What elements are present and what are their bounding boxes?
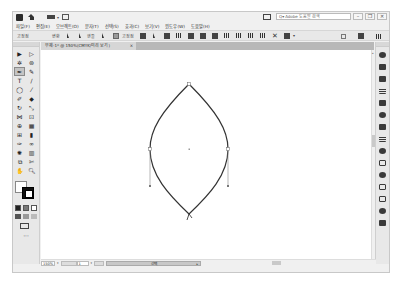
- draw-inside-icon[interactable]: [31, 214, 37, 219]
- cut-path-icon[interactable]: [164, 33, 170, 39]
- align-middle-icon[interactable]: [236, 33, 242, 38]
- isolate-icon[interactable]: [176, 33, 182, 38]
- artboard-canvas[interactable]: [41, 50, 371, 259]
- color-guide-panel-icon[interactable]: [379, 88, 386, 94]
- transform-icon[interactable]: ✕: [272, 33, 278, 39]
- symbol-sprayer-tool[interactable]: ✺: [15, 149, 24, 156]
- stroke-panel-icon[interactable]: [379, 136, 386, 142]
- paintbrush-tool[interactable]: ⁄: [27, 86, 36, 93]
- free-transform-tool[interactable]: ⊡: [27, 113, 36, 120]
- menu-object[interactable]: 오브젝트(O): [56, 23, 79, 29]
- align-bottom-icon[interactable]: [248, 33, 254, 38]
- eyedropper-tool[interactable]: ✑: [15, 140, 24, 147]
- transparency-panel-icon[interactable]: [379, 160, 386, 166]
- menu-help[interactable]: 도움말(H): [191, 23, 210, 29]
- chevron-right-icon[interactable]: ▸: [197, 262, 199, 266]
- zoom-level-field[interactable]: 150%: [41, 261, 55, 266]
- links-panel-icon[interactable]: [379, 220, 386, 226]
- asset-export-panel-icon[interactable]: [379, 208, 386, 214]
- screen-mode-icon[interactable]: [20, 223, 29, 229]
- blend-tool[interactable]: ∞: [27, 140, 36, 147]
- direct-selection-tool[interactable]: ▷: [27, 50, 36, 57]
- artboards-panel-icon[interactable]: [379, 196, 386, 202]
- align-right-icon[interactable]: [212, 33, 218, 39]
- convert-smooth-icon[interactable]: [78, 33, 84, 39]
- perspective-grid-tool[interactable]: ▦: [27, 122, 36, 129]
- close-tab-icon[interactable]: ×: [130, 42, 133, 50]
- close-button[interactable]: ✕: [377, 13, 387, 20]
- draw-behind-icon[interactable]: [23, 214, 29, 219]
- symbols-panel-icon[interactable]: [379, 124, 386, 130]
- menu-edit[interactable]: 편집(E): [36, 23, 50, 29]
- menu-effect[interactable]: 효과(C): [125, 23, 139, 29]
- gradient-panel-icon[interactable]: [379, 148, 386, 154]
- ellipse-tool[interactable]: ◯: [15, 86, 24, 93]
- gradient-tool[interactable]: ▮: [27, 131, 36, 138]
- home-icon[interactable]: [28, 14, 35, 20]
- workspace-switcher-icon[interactable]: [47, 15, 55, 19]
- gradient-mode-icon[interactable]: [23, 205, 29, 211]
- align-left-icon[interactable]: [188, 33, 194, 39]
- panel-toggle-icon[interactable]: [263, 14, 271, 20]
- scale-tool[interactable]: ⤡: [27, 104, 36, 111]
- menu-select[interactable]: 선택(S): [105, 23, 119, 29]
- curvature-tool[interactable]: ✎: [27, 68, 36, 75]
- none-mode-icon[interactable]: [31, 205, 37, 211]
- stroke-swatch[interactable]: [22, 187, 34, 199]
- panel-menu-icon[interactable]: [376, 34, 382, 39]
- eraser-tool[interactable]: ◆: [27, 95, 36, 102]
- rotate-tool[interactable]: ↻: [15, 104, 24, 111]
- artboard-prev-buttons[interactable]: [61, 261, 77, 266]
- artboard-tool[interactable]: ⧉: [15, 158, 24, 165]
- chevron-down-icon[interactable]: ▾: [57, 261, 59, 265]
- magic-wand-tool[interactable]: ✲: [15, 59, 24, 66]
- draw-normal-icon[interactable]: [15, 214, 21, 219]
- status-display-field[interactable]: 선택 ▸: [106, 261, 201, 266]
- minimize-button[interactable]: –: [353, 13, 363, 20]
- pen-tool[interactable]: ✒: [15, 68, 24, 75]
- align-top-icon[interactable]: [224, 33, 230, 38]
- selection-tool[interactable]: ▶: [15, 50, 24, 57]
- distribute-icon[interactable]: [260, 33, 266, 38]
- menu-type[interactable]: 문자(T): [85, 23, 99, 29]
- edit-toolbar-button[interactable]: ···: [13, 233, 39, 239]
- document-tab[interactable]: 무제-1* @ 150%(CMYK/미리 보기) ×: [41, 42, 136, 50]
- hand-tool[interactable]: ✋: [15, 167, 24, 174]
- width-tool[interactable]: ⋈: [15, 113, 24, 120]
- properties-panel-icon[interactable]: [379, 52, 386, 58]
- menu-view[interactable]: 보기(V): [145, 23, 159, 29]
- hide-handles-icon[interactable]: [113, 33, 119, 39]
- color-panel-icon[interactable]: [379, 76, 386, 82]
- help-search-input[interactable]: Q▾ Adobe 도움말 검색: [276, 13, 351, 20]
- lens-path[interactable]: [41, 50, 371, 259]
- horizontal-scrollbar[interactable]: [204, 261, 376, 266]
- mesh-tool[interactable]: ⊞: [15, 131, 24, 138]
- horizontal-scroll-thumb[interactable]: [272, 261, 281, 265]
- zoom-tool[interactable]: 🔍︎: [27, 167, 36, 174]
- chevron-down-icon[interactable]: ▾: [57, 15, 59, 20]
- recolor-icon[interactable]: [284, 33, 290, 39]
- lasso-tool[interactable]: ⊚: [27, 59, 36, 66]
- chevron-down-icon[interactable]: ▾: [293, 33, 295, 38]
- convert-corner-icon[interactable]: [66, 33, 72, 39]
- slice-tool[interactable]: ✄: [27, 158, 36, 165]
- line-segment-tool[interactable]: /: [27, 77, 36, 84]
- artboard-next-buttons[interactable]: [94, 261, 104, 266]
- column-graph-tool[interactable]: ▥: [27, 149, 36, 156]
- shape-builder-tool[interactable]: ⊕: [15, 122, 24, 129]
- appearance-panel-icon[interactable]: [379, 172, 386, 178]
- restore-button[interactable]: ❐: [365, 13, 375, 20]
- shaper-tool[interactable]: ✐: [15, 95, 24, 102]
- connect-points-icon[interactable]: [152, 33, 158, 39]
- layers-panel-icon[interactable]: [379, 184, 386, 190]
- chevron-down-icon[interactable]: ▾: [91, 261, 93, 265]
- libraries-panel-icon[interactable]: [379, 64, 386, 70]
- isolation-icon[interactable]: [341, 34, 346, 39]
- color-mode-icon[interactable]: [15, 205, 21, 211]
- arrange-documents-icon[interactable]: [62, 14, 69, 20]
- brushes-panel-icon[interactable]: [379, 112, 386, 118]
- type-tool[interactable]: T: [15, 77, 24, 84]
- remove-anchor-icon[interactable]: [140, 33, 146, 39]
- swatches-panel-icon[interactable]: [379, 100, 386, 106]
- show-handles-icon[interactable]: [101, 33, 107, 39]
